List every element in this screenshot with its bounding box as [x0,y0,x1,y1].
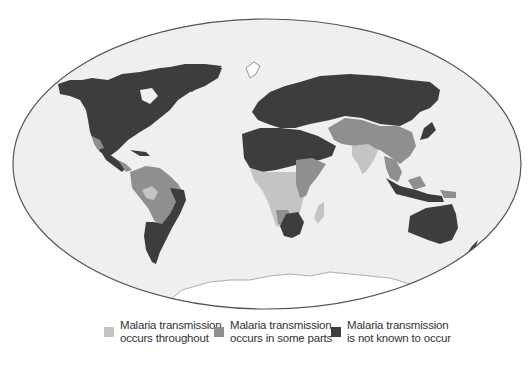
legend-label-line2: occurs throughout [120,332,221,345]
legend-swatch-some-parts [214,327,224,337]
legend-swatch-not-known [331,327,341,337]
legend-label-line2: is not known to occur [347,332,451,345]
legend-swatch-throughout [104,327,114,337]
legend-item-throughout: Malaria transmission occurs throughout [104,319,221,345]
legend-label-line2: occurs in some parts [230,332,332,345]
legend-label-line1: Malaria transmission [120,319,221,332]
legend: Malaria transmission occurs throughout M… [0,319,531,359]
legend-label-line1: Malaria transmission [347,319,451,332]
legend-item-some-parts: Malaria transmission occurs in some part… [214,319,332,345]
legend-item-not-known: Malaria transmission is not known to occ… [331,319,451,345]
legend-label-line1: Malaria transmission [230,319,332,332]
world-malaria-map [0,0,531,312]
